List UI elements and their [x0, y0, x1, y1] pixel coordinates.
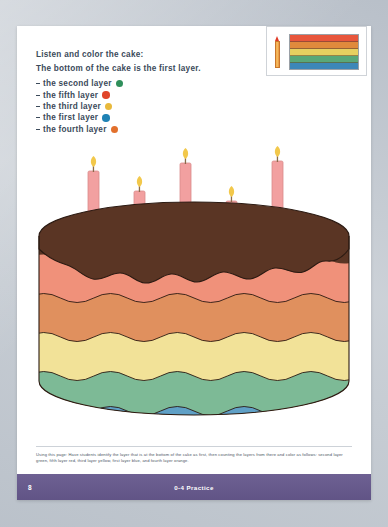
cake-frosting-top [39, 202, 349, 283]
mini-cake-bars [289, 34, 359, 70]
mini-bar [290, 35, 358, 42]
mini-bar [290, 42, 358, 49]
layer-list-item: the first layer [36, 112, 266, 123]
color-swatch-dot [111, 126, 119, 134]
bullet-dash-icon [36, 95, 40, 96]
bullet-dash-icon [36, 106, 40, 107]
worksheet-page: Listen and color the cake: The bottom of… [17, 26, 371, 500]
bullet-dash-icon [36, 129, 40, 130]
layer-list-item-label: the fifth layer [43, 91, 98, 100]
layer-list-item-label: the second layer [43, 79, 112, 88]
candle-flame-icon [137, 176, 142, 187]
bullet-dash-icon [36, 117, 40, 118]
layer-list: the second layerthe fifth layerthe third… [36, 78, 266, 135]
footnote-divider [36, 446, 352, 447]
color-swatch-dot [105, 103, 113, 111]
candle-flame-icon [275, 146, 280, 157]
cake-svg [17, 141, 371, 441]
cake-illustration [17, 141, 371, 441]
footer-title: 0-4 Practice [17, 484, 371, 491]
candle-flame-icon [183, 148, 188, 159]
crayon-body-icon [275, 41, 280, 68]
color-swatch-dot [102, 91, 110, 99]
layer-list-item-label: the first layer [43, 113, 98, 122]
candle-flame-icon [91, 156, 96, 167]
candle-flame-icon [229, 186, 234, 197]
footnote-text: Using this page: Have students identify … [36, 452, 344, 464]
mini-bar [290, 49, 358, 56]
crayon-icon [275, 36, 280, 68]
layer-list-item: the fifth layer [36, 89, 266, 100]
instruction-line-1: Listen and color the cake: [36, 48, 266, 61]
bullet-dash-icon [36, 83, 40, 84]
instructions-block: Listen and color the cake: The bottom of… [36, 48, 266, 135]
layer-list-item: the third layer [36, 101, 266, 112]
layer-list-item-label: the fourth layer [43, 125, 107, 134]
layer-list-item: the fourth layer [36, 124, 266, 135]
blue-layer [27, 407, 361, 437]
color-swatch-dot [116, 80, 124, 88]
instruction-line-2: The bottom of the cake is the first laye… [36, 62, 266, 75]
layer-list-item: the second layer [36, 78, 266, 89]
mini-bar [290, 63, 358, 69]
mini-bar [290, 56, 358, 63]
color-key-thumbnail [266, 26, 367, 76]
layer-list-item-label: the third layer [43, 102, 101, 111]
page-footer-bar: 8 0-4 Practice [17, 474, 371, 500]
color-swatch-dot [102, 114, 110, 122]
